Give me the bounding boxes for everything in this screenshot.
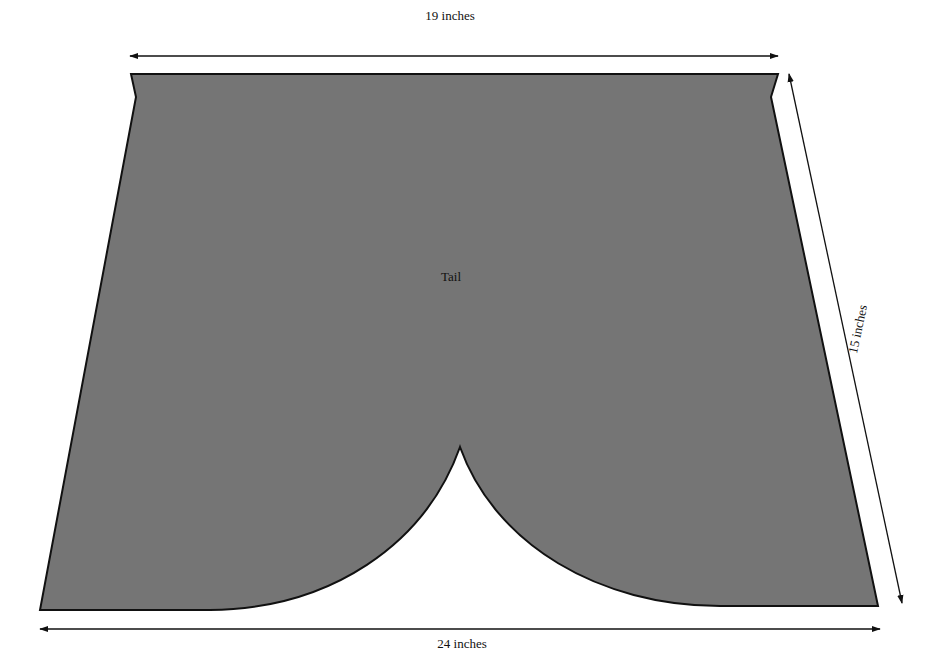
side-dimension-label: 15 inches (845, 303, 870, 355)
top-dimension-label: 19 inches (425, 8, 474, 23)
bottom-dimension-label: 24 inches (437, 636, 486, 651)
tail-pattern-piece (40, 74, 878, 610)
pattern-diagram: 19 inches 15 inches 24 inches Tail (0, 0, 948, 658)
piece-label: Tail (441, 269, 461, 284)
